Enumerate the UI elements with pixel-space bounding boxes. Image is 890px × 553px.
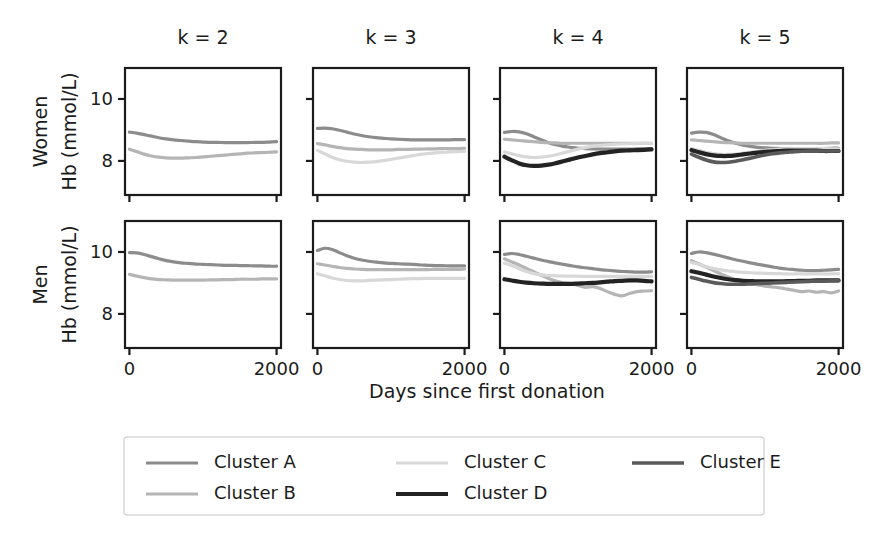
legend-box — [124, 437, 764, 515]
panel-men-k2: 81002000 — [90, 221, 299, 379]
panel-women-k5 — [680, 68, 843, 202]
x-tick-label: 2000 — [629, 358, 675, 379]
x-tick-label: 0 — [686, 358, 697, 379]
y-tick-label: 8 — [102, 303, 113, 324]
panel-background — [125, 68, 281, 195]
legend-label: Cluster B — [214, 482, 296, 503]
panel-title-k2: k = 2 — [177, 26, 228, 48]
legend-label: Cluster E — [700, 451, 781, 472]
multi-panel-line-chart: k = 2k = 3k = 4k = 581081002000020000200… — [0, 0, 890, 553]
x-tick-label: 0 — [499, 358, 510, 379]
row-label-unit: Hb (mmol/L) — [58, 225, 80, 343]
panel-men-k5: 02000 — [680, 221, 861, 379]
panel-title-k3: k = 3 — [365, 26, 416, 48]
panel-title-k5: k = 5 — [739, 26, 790, 48]
panel-men-k4: 02000 — [493, 221, 674, 379]
panel-title-k4: k = 4 — [552, 26, 603, 48]
figure-root: k = 2k = 3k = 4k = 581081002000020000200… — [0, 0, 890, 553]
x-axis-label: Days since first donation — [369, 380, 605, 402]
x-tick-label: 2000 — [442, 358, 488, 379]
x-tick-label: 2000 — [254, 358, 300, 379]
x-tick-label: 0 — [312, 358, 323, 379]
legend-label: Cluster D — [464, 482, 547, 503]
x-tick-label: 2000 — [816, 358, 862, 379]
panel-women-k4 — [493, 68, 656, 202]
panel-women-k3 — [306, 68, 469, 202]
legend-label: Cluster C — [464, 451, 546, 472]
y-tick-label: 10 — [90, 88, 113, 109]
row-label-women: Women — [29, 96, 51, 168]
panel-men-k3: 02000 — [306, 221, 487, 379]
panel-background — [313, 221, 469, 348]
panel-background — [313, 68, 469, 195]
x-tick-label: 0 — [124, 358, 135, 379]
row-label-unit: Hb (mmol/L) — [58, 72, 80, 190]
row-label-men: Men — [29, 264, 51, 304]
panel-background — [687, 68, 843, 195]
panel-background — [125, 221, 281, 348]
y-tick-label: 8 — [102, 150, 113, 171]
legend-label: Cluster A — [214, 451, 297, 472]
y-tick-label: 10 — [90, 241, 113, 262]
panel-women-k2: 810 — [90, 68, 281, 202]
